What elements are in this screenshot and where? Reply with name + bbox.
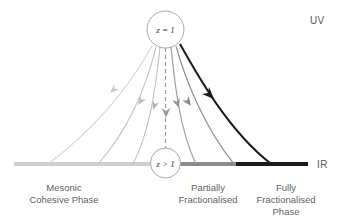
- fully-fractionalised-phase-label: Fully: [276, 182, 296, 193]
- fully-fractionalised-phase-label-line3: Phase: [273, 206, 300, 217]
- ir-fixed-point-label: z > 1: [155, 159, 175, 169]
- partially-fractionalised-label-line2: Fractionalised: [178, 194, 237, 205]
- uv-endpoint-label: UV: [310, 15, 325, 26]
- ir-endpoint-label: IR: [317, 159, 328, 170]
- partially-fractionalised-label: Partially: [191, 182, 225, 193]
- uv-fixed-point-label: z = 1: [155, 25, 175, 35]
- flow-curve-6: [176, 46, 234, 164]
- phase-region-labels: Mesonic Cohesive Phase Partially Fractio…: [29, 182, 315, 217]
- flow-arrow-icon-6: [182, 96, 194, 108]
- rg-flow-diagram: z = 1 z > 1 UV IR Mesonic Cohesive Phase…: [0, 0, 341, 222]
- mesonic-cohesive-phase-label: Mesonic: [46, 182, 82, 193]
- fully-fractionalised-phase-label-line2: Fractionalised: [256, 194, 315, 205]
- rg-flow-curves: [48, 44, 270, 164]
- mesonic-cohesive-phase-label-line2: Cohesive Phase: [29, 194, 98, 205]
- fixed-point-nodes: z = 1 z > 1: [147, 11, 184, 178]
- flow-arrow-icon-1: [108, 84, 119, 95]
- flow-arrow-icon-dashed: [162, 108, 170, 118]
- flow-curve-2: [98, 47, 156, 164]
- flow-arrow-icon-2: [135, 95, 146, 106]
- flow-curve-7-dark: [180, 44, 270, 163]
